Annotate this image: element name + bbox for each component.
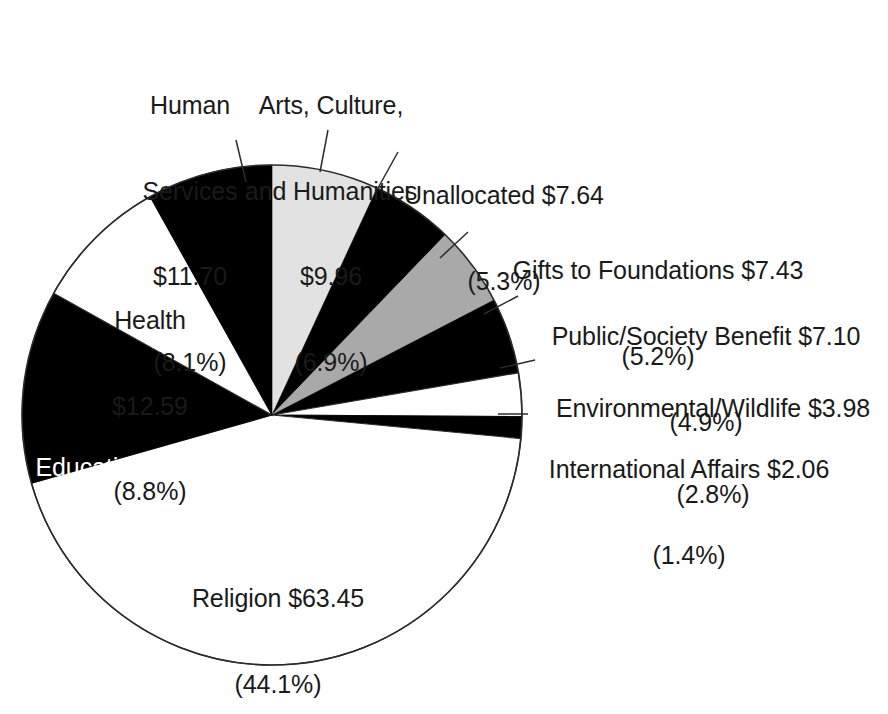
slice-label-line: Religion $63.45 [160, 584, 396, 613]
pie-chart: Human Services $11.70 (8.1%) Arts, Cultu… [0, 0, 888, 714]
slice-label-line: Health [76, 306, 224, 335]
slice-label-religion: Religion $63.45 (44.1%) [160, 527, 396, 714]
slice-label-line: (44.1%) [160, 670, 396, 699]
slice-label-international-affairs: International Affairs $2.06 (1.4%) [530, 398, 848, 626]
slice-label-line: (1.4%) [530, 541, 848, 570]
slice-label-line: Arts, Culture, [236, 91, 426, 120]
slice-label-line: Education $17.94 [10, 453, 254, 482]
slice-label-line: International Affairs $2.06 [530, 455, 848, 484]
